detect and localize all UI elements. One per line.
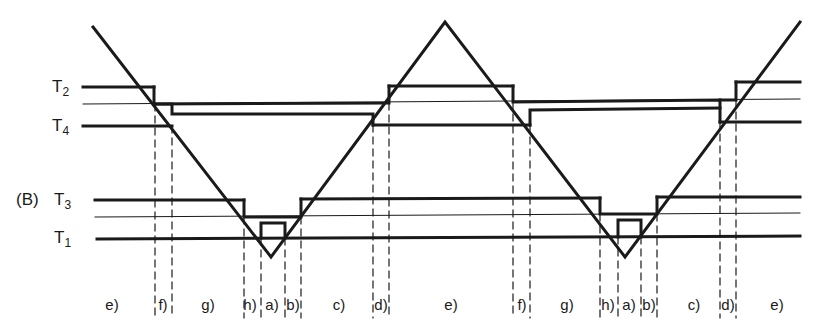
segment-label: d) [721, 297, 734, 312]
upper-step-waveform-1b [154, 86, 389, 104]
level-label-t1: T1 [54, 229, 71, 249]
segment-label: g) [201, 297, 214, 312]
dashed-projection-lines [155, 100, 736, 318]
level-label-t2: T2 [52, 78, 69, 98]
segment-label: b) [642, 297, 655, 312]
segment-label: b) [286, 297, 299, 312]
lower-step-waveform-2-box [618, 220, 641, 237]
lower-step-waveform-1 [244, 199, 301, 217]
segment-label: c) [333, 297, 346, 312]
segment-label: e) [770, 297, 783, 312]
segment-label: e) [105, 297, 118, 312]
level-line-t3-mid [301, 198, 600, 199]
upper-step-waveform-2 [513, 86, 720, 122]
segment-label: c) [688, 297, 701, 312]
upper-step-waveform-1 [154, 87, 373, 125]
segment-label: a) [622, 297, 635, 312]
panel-label: (B) [16, 191, 39, 208]
triangle-wave [93, 22, 800, 257]
thin-line-lower [95, 213, 800, 217]
segment-label: h) [601, 297, 614, 312]
lower-step-waveform-2 [600, 197, 657, 214]
segment-label: f) [158, 297, 167, 312]
segment-label: g) [560, 297, 573, 312]
upper-step-waveform-2c [720, 82, 736, 100]
lower-step-waveform-1-box [261, 223, 285, 238]
hysteresis-diagram [0, 0, 817, 331]
level-label-t4: T4 [52, 117, 69, 137]
segment-label: d) [374, 297, 387, 312]
upper-step-waveform-2b [530, 108, 720, 125]
segment-label: e) [444, 297, 457, 312]
level-label-t3: T3 [54, 191, 71, 211]
level-line-t1 [97, 236, 800, 239]
segment-label: a) [265, 297, 278, 312]
segment-label: f) [517, 297, 526, 312]
segment-label: h) [243, 297, 256, 312]
